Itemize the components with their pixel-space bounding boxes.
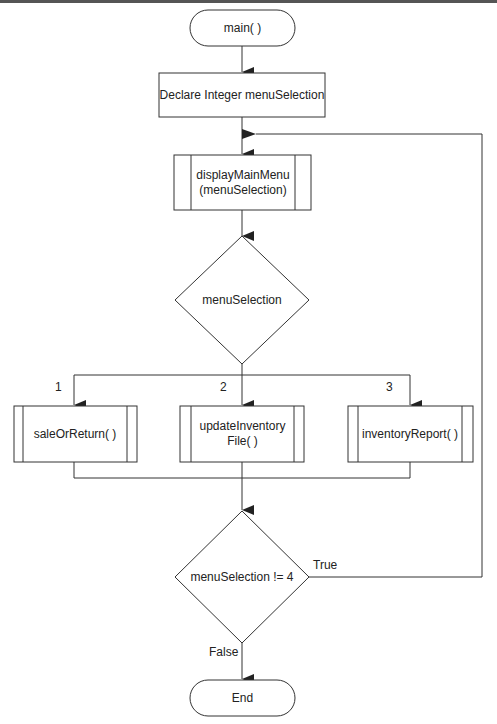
- case1-label: 1: [55, 380, 62, 394]
- true-label: True: [313, 558, 337, 572]
- display-menu-label: displayMainMenu (menuSelection): [191, 155, 295, 210]
- declare-label: Declare Integer menuSelection: [159, 73, 325, 117]
- display-menu-line2: (menuSelection): [199, 183, 286, 198]
- display-menu-line1: displayMainMenu: [196, 168, 289, 183]
- loop-check-label: menuSelection != 4: [175, 567, 309, 587]
- end-label: End: [190, 680, 295, 716]
- case3-label: 3: [386, 380, 393, 394]
- case2-label: 2: [220, 380, 227, 394]
- update-line1: updateInventory: [199, 419, 285, 434]
- update-line2: File( ): [227, 434, 258, 449]
- report-label: inventoryReport( ): [358, 406, 462, 462]
- switch-label: menuSelection: [175, 290, 309, 310]
- sale-label: saleOrReturn( ): [23, 406, 127, 462]
- start-label: main( ): [190, 10, 295, 46]
- false-label: False: [209, 645, 238, 659]
- update-label: updateInventory File( ): [191, 406, 294, 462]
